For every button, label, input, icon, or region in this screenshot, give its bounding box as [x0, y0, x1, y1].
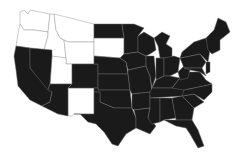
state-ne_new_england	[206, 18, 230, 54]
state-ks	[98, 74, 130, 90]
state-ar	[132, 92, 150, 110]
state-mi	[154, 32, 172, 58]
state-layer	[14, 10, 230, 148]
state-nj	[206, 62, 210, 74]
state-mt	[54, 14, 94, 42]
state-nd	[94, 24, 124, 38]
state-sd	[94, 38, 124, 58]
state-ms	[148, 98, 160, 124]
state-fl	[164, 120, 204, 148]
state-co	[68, 64, 98, 88]
state-wa	[20, 10, 50, 32]
state-nm	[68, 88, 94, 116]
state-wi	[138, 32, 156, 56]
state-oh	[164, 56, 180, 76]
us-choropleth-map	[0, 0, 241, 156]
state-wy	[64, 40, 94, 64]
